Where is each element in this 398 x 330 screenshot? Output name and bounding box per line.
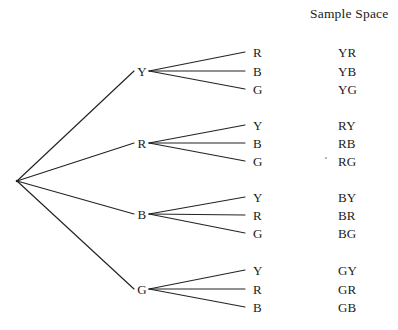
sample-space-outcome-0-2: YG: [338, 83, 357, 96]
leaf-node-3-0: Y: [253, 264, 263, 277]
sample-space-outcome-3-0: GY: [338, 264, 357, 277]
edge-branch3-to-leaf0: [149, 270, 245, 289]
edge-branch2-to-leaf2: [149, 214, 245, 233]
branch-node-1: R: [138, 137, 147, 150]
edge-branch2-to-leaf0: [149, 197, 245, 214]
sample-space-outcome-1-0: RY: [338, 119, 356, 132]
root-node-vertex: [16, 180, 19, 183]
leaf-node-3-1: R: [253, 283, 262, 296]
edge-branch1-to-leaf2: [149, 143, 245, 161]
sample-space-outcome-1-1: RB: [338, 137, 356, 150]
edge-branch0-to-leaf2: [149, 71, 245, 89]
sample-space-outcome-3-2: GB: [338, 301, 356, 314]
leaf-node-3-2: B: [253, 301, 262, 314]
scan-artifact-speck: [325, 157, 327, 159]
leaf-node-2-1: R: [253, 209, 262, 222]
sample-space-outcome-2-0: BY: [338, 191, 356, 204]
sample-space-outcome-0-0: YR: [338, 46, 356, 59]
leaf-node-1-0: Y: [253, 119, 263, 132]
sample-space-outcome-2-1: BR: [338, 209, 356, 222]
edge-branch3-to-leaf2: [149, 289, 245, 307]
leaf-node-1-2: G: [253, 155, 263, 168]
branch-node-0: Y: [137, 65, 147, 78]
edge-branch1-to-leaf0: [149, 125, 245, 143]
sample-space-outcome-3-1: GR: [338, 283, 356, 296]
edge-root-to-r-1: [17, 143, 134, 181]
sample-space-outcome-0-1: YB: [338, 65, 356, 78]
leaf-node-0-0: R: [253, 46, 262, 59]
tree-diagram-canvas: Sample Space YRYRBYBGYGRYRYBRBGRGBYBYRBR…: [0, 0, 398, 330]
sample-space-outcome-1-2: RG: [338, 155, 356, 168]
edge-branch2-to-leaf1: [149, 214, 245, 215]
leaf-node-0-1: B: [253, 65, 262, 78]
leaf-node-0-2: G: [253, 83, 263, 96]
branch-node-2: B: [138, 208, 147, 221]
leaf-node-1-1: B: [253, 137, 262, 150]
branch-node-3: G: [137, 283, 147, 296]
edge-branch0-to-leaf0: [149, 52, 245, 71]
edge-root-to-y-0: [17, 71, 134, 181]
leaf-node-2-2: G: [253, 227, 263, 240]
sample-space-title: Sample Space: [310, 7, 389, 21]
leaf-node-2-0: Y: [253, 191, 263, 204]
sample-space-outcome-2-2: BG: [338, 227, 356, 240]
